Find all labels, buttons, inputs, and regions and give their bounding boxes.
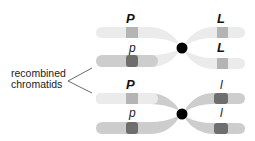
label-bottom-upper-right: l	[220, 78, 223, 92]
bottom-lower-right-band	[214, 123, 228, 134]
top-upper-right-band	[217, 27, 228, 38]
annotation-line2: chromatids	[11, 78, 62, 90]
bottom-upper-left-band	[126, 93, 138, 104]
label-top-lower-right: L	[217, 40, 225, 55]
label-bottom-lower-right: l	[220, 106, 223, 120]
annotation-pointer-lines	[68, 68, 92, 93]
top-upper-left-band	[126, 27, 138, 38]
top-upper-right-arm	[186, 27, 245, 45]
label-top-lower-left: p	[128, 41, 136, 55]
label-top-upper-right: L	[217, 11, 225, 26]
chromosome-diagram: P L p L P l p l recombined chromatids	[0, 0, 255, 141]
label-bottom-lower-left: p	[128, 106, 136, 120]
label-bottom-upper-left: P	[126, 77, 135, 92]
top-centromere	[177, 43, 188, 54]
bottom-lower-left-band	[126, 122, 138, 134]
bottom-centromere	[177, 109, 188, 120]
label-top-upper-left: P	[126, 11, 135, 26]
top-lower-left-band	[126, 55, 138, 67]
top-lower-right-band	[217, 58, 228, 69]
bottom-upper-right-band	[214, 93, 228, 104]
top-lower-right-arm	[186, 51, 245, 69]
